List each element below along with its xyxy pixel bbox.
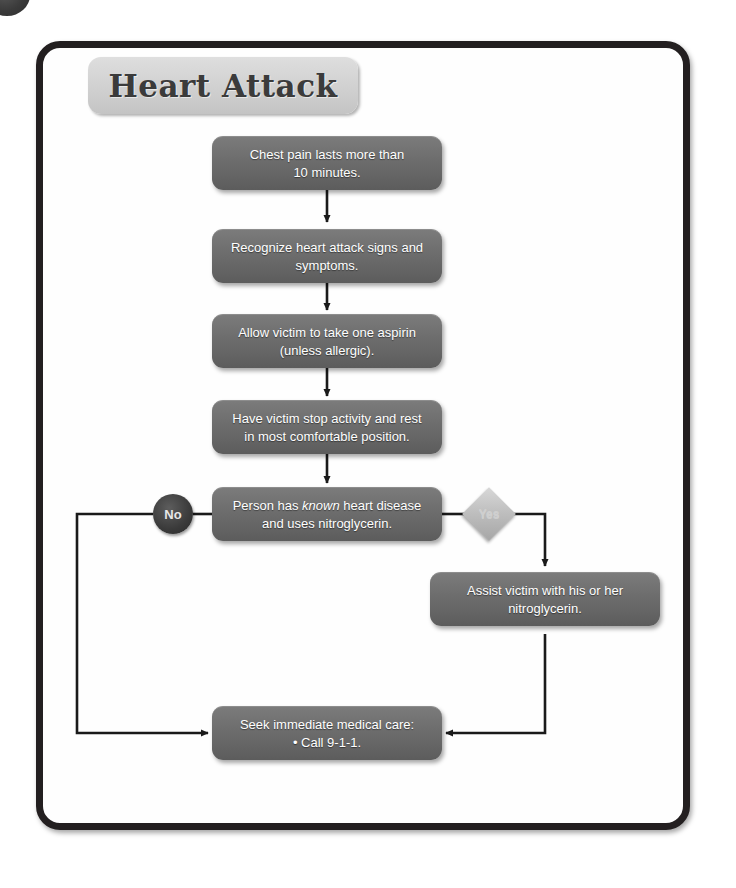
branch-label-yes-text-wrap: Yes xyxy=(470,495,508,533)
page-title: Heart Attack xyxy=(108,68,337,104)
flow-node-aspirin: Allow victim to take one aspirin (unless… xyxy=(212,314,442,368)
flow-node-recognize-signs: Recognize heart attack signs and symptom… xyxy=(212,229,442,283)
branch-label-yes-text: Yes xyxy=(479,507,500,521)
flow-node-text: Have victim stop activity and rest in mo… xyxy=(232,410,421,444)
flow-node-seek-care: Seek immediate medical care: • Call 9-1-… xyxy=(212,706,442,760)
flow-node-rest-position: Have victim stop activity and rest in mo… xyxy=(212,400,442,454)
flow-node-text: Assist victim with his or her nitroglyce… xyxy=(467,582,623,616)
flow-node-assist-nitroglycerin: Assist victim with his or her nitroglyce… xyxy=(430,572,660,626)
flow-node-text: Recognize heart attack signs and symptom… xyxy=(231,239,423,273)
flow-node-text: Chest pain lasts more than 10 minutes. xyxy=(250,146,405,180)
branch-label-no: No xyxy=(153,494,193,534)
flow-node-text: Person has known heart disease and uses … xyxy=(233,497,422,531)
branch-label-no-text: No xyxy=(164,507,181,522)
poster-title-plate: Heart Attack xyxy=(88,57,358,114)
flow-node-decision-nitroglycerin: Person has known heart disease and uses … xyxy=(212,487,442,541)
flow-node-chest-pain: Chest pain lasts more than 10 minutes. xyxy=(212,136,442,190)
flow-node-text: Allow victim to take one aspirin (unless… xyxy=(238,324,416,358)
flow-node-text: Seek immediate medical care: • Call 9-1-… xyxy=(240,716,414,750)
